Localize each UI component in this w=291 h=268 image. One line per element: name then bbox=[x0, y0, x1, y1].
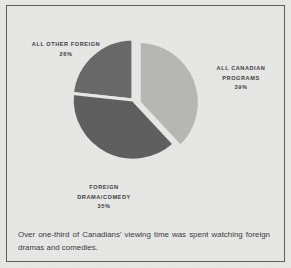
slice-label-all-canadian-programs: ALL CANADIAN PROGRAMS 39% bbox=[193, 64, 289, 93]
slice-label-foreign-drama-comedy-line1: FOREIGN bbox=[49, 183, 159, 193]
slice-label-foreign-drama-comedy-value: 35% bbox=[49, 202, 159, 212]
slice-label-all-canadian-programs-line1: ALL CANADIAN bbox=[193, 64, 289, 74]
slice-label-all-other-foreign-text: ALL OTHER FOREIGN bbox=[13, 40, 119, 50]
slice-label-all-other-foreign: ALL OTHER FOREIGN 26% bbox=[13, 40, 119, 59]
slice-label-foreign-drama-comedy: FOREIGN DRAMA/COMEDY 35% bbox=[49, 183, 159, 212]
plot-area: ALL OTHER FOREIGN 26% ALL CANADIAN PROGR… bbox=[7, 6, 284, 220]
slice-label-all-other-foreign-value: 26% bbox=[13, 50, 119, 60]
pie-chart-figure: ALL OTHER FOREIGN 26% ALL CANADIAN PROGR… bbox=[0, 0, 291, 268]
slice-label-foreign-drama-comedy-line2: DRAMA/COMEDY bbox=[49, 193, 159, 203]
figure-caption: Over one-third of Canadians' viewing tim… bbox=[18, 229, 270, 254]
slice-label-all-canadian-programs-value: 39% bbox=[193, 83, 289, 93]
slice-label-all-canadian-programs-line2: PROGRAMS bbox=[193, 74, 289, 84]
